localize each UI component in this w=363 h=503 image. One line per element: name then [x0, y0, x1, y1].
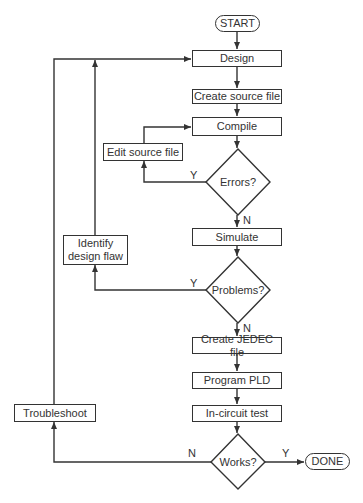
works-yes-label: Y	[282, 447, 289, 459]
create-jedec-file-label: Create JEDEC file	[193, 333, 281, 359]
create-source-file-box: Create source file	[192, 89, 282, 104]
errors-no-label: N	[243, 214, 251, 226]
create-source-file-label: Create source file	[194, 90, 280, 103]
identify-design-flaw-box: Identify design flaw	[63, 235, 128, 265]
simulate-label: Simulate	[216, 231, 259, 244]
compile-label: Compile	[217, 120, 257, 133]
problems-yes-label: Y	[190, 277, 197, 289]
identify-design-flaw-label: Identify design flaw	[64, 237, 127, 263]
works-label: Works?	[219, 456, 256, 468]
design-label: Design	[220, 52, 254, 65]
in-circuit-test-label: In-circuit test	[206, 407, 268, 420]
errors-label: Errors?	[220, 176, 256, 188]
program-pld-box: Program PLD	[192, 372, 282, 389]
design-box: Design	[192, 50, 282, 67]
errors-yes-label: Y	[190, 169, 197, 181]
start-label: START	[220, 17, 255, 30]
works-decision: Works?	[211, 454, 265, 470]
compile-box: Compile	[192, 117, 282, 136]
edit-source-file-box: Edit source file	[103, 143, 183, 161]
create-jedec-file-box: Create JEDEC file	[192, 337, 282, 354]
problems-decision: Problems?	[206, 282, 270, 298]
in-circuit-test-box: In-circuit test	[192, 405, 282, 422]
done-label: DONE	[312, 455, 344, 468]
troubleshoot-label: Troubleshoot	[23, 407, 87, 420]
works-no-label: N	[188, 447, 196, 459]
start-terminal: START	[215, 15, 260, 32]
flowchart-connectors	[0, 0, 363, 503]
done-terminal: DONE	[305, 453, 350, 470]
program-pld-label: Program PLD	[204, 374, 271, 387]
problems-label: Problems?	[212, 284, 265, 296]
edit-source-file-label: Edit source file	[107, 146, 179, 159]
troubleshoot-box: Troubleshoot	[14, 404, 96, 422]
simulate-box: Simulate	[192, 228, 282, 246]
errors-decision: Errors?	[206, 174, 270, 190]
